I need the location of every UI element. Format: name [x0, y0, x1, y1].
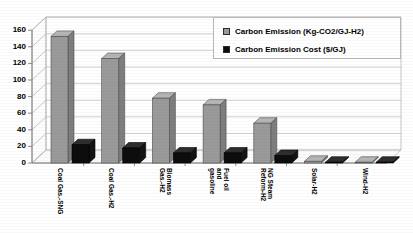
- y-tick-20: 20: [0, 142, 26, 150]
- y-tick-60: 60: [0, 109, 26, 117]
- legend-label-carbon-emission-cost: Carbon Emission Cost ($/GJ): [235, 45, 346, 54]
- bar-group-ng-steam-reform-h2: [254, 118, 298, 163]
- bar-group-wind-h2: [355, 157, 399, 163]
- bar-cost-coal-gas-h2: [123, 143, 146, 164]
- bar-cost-ng-steam-reform-h2: [275, 150, 298, 163]
- y-tick-120: 120: [0, 59, 26, 67]
- bar-group-fuel-oil-and-gasoline: [203, 99, 247, 163]
- bar-emission-solar-h2: [305, 156, 328, 163]
- y-tick-160: 160: [0, 26, 26, 34]
- x-label-wrap-solar-h2: Solar-H2: [311, 168, 325, 230]
- bar-emission-coal-gas-sng: [51, 31, 74, 163]
- bar-cost-biomass-gas-h2: [173, 148, 196, 164]
- x-label-wrap-coal-gas-h2: Coal Gas.-H2: [108, 168, 122, 230]
- y-tick-0: 0: [0, 159, 26, 167]
- bar-cost-solar-h2: [326, 157, 349, 163]
- legend-swatch-carbon-emission: [223, 28, 230, 35]
- x-label-biomass-gas-h2: Biomass Gas.-H2: [159, 168, 173, 202]
- x-label-wrap-wind-h2: Wind-H2: [362, 168, 376, 230]
- x-label-solar-h2: Solar-H2: [311, 168, 318, 228]
- x-label-fuel-oil-and-gasoline: Fuel oil and gasoline: [209, 168, 230, 202]
- bar-emission-wind-h2: [355, 157, 378, 163]
- bar-cost-fuel-oil-and-gasoline: [224, 148, 247, 164]
- x-label-coal-gas-h2: Coal Gas.-H2: [108, 168, 115, 228]
- bar-emission-fuel-oil-and-gasoline: [203, 99, 226, 163]
- legend-item-carbon-emission-cost: Carbon Emission Cost ($/GJ): [223, 44, 346, 55]
- bar-cost-wind-h2: [376, 157, 399, 163]
- carbon-emission-bar-chart: 160 140 120 100 80 60 40 20 0 Coal Gas.-…: [0, 0, 413, 233]
- x-label-ng-steam-reform-h2: NG Steam Reform-H2: [260, 168, 274, 202]
- x-label-wrap-fuel-oil-and-gasoline: Fuel oil and gasoline: [209, 168, 223, 230]
- bar-emission-ng-steam-reform-h2: [254, 118, 277, 163]
- legend-item-carbon-emission: Carbon Emission (Kg-CO2/GJ-H2): [223, 26, 364, 37]
- x-label-coal-gas-sng: Coal Gas.-SNG: [57, 168, 64, 228]
- y-tick-80: 80: [0, 93, 26, 101]
- y-tick-140: 140: [0, 43, 26, 51]
- y-tick-40: 40: [0, 126, 26, 134]
- bar-group-biomass-gas-h2: [152, 93, 196, 163]
- bar-group-solar-h2: [305, 156, 349, 163]
- bar-emission-coal-gas-h2: [102, 53, 125, 163]
- x-label-wrap-ng-steam-reform-h2: NG Steam Reform-H2: [260, 168, 274, 230]
- bar-group-coal-gas-sng: [51, 31, 95, 163]
- bar-group-coal-gas-h2: [102, 53, 146, 163]
- legend-swatch-carbon-emission-cost: [223, 46, 230, 53]
- x-label-wind-h2: Wind-H2: [362, 168, 369, 228]
- bar-cost-coal-gas-sng: [72, 139, 95, 163]
- y-tick-100: 100: [0, 76, 26, 84]
- x-label-wrap-coal-gas-sng: Coal Gas.-SNG: [57, 168, 71, 230]
- bar-emission-biomass-gas-h2: [152, 93, 175, 163]
- legend-label-carbon-emission: Carbon Emission (Kg-CO2/GJ-H2): [235, 27, 364, 36]
- x-label-wrap-biomass-gas-h2: Biomass Gas.-H2: [159, 168, 173, 230]
- chart-legend: Carbon Emission (Kg-CO2/GJ-H2) Carbon Em…: [213, 17, 401, 59]
